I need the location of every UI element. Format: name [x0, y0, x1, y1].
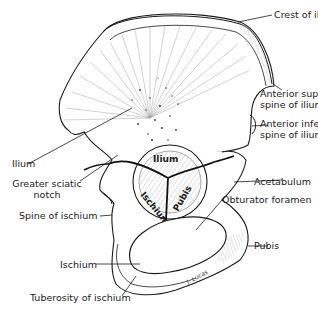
label-anterior-inferior-spine-line1: Anterior inferior	[260, 118, 318, 129]
label-ilium: Ilium	[12, 158, 35, 169]
label-ischium: Ischium	[60, 259, 97, 270]
label-anterior-inferior-spine-line2: spine of ilium	[260, 129, 318, 140]
label-acetabulum: Acetabulum	[254, 176, 311, 187]
label-anterior-superior-spine-line2: spine of ilium	[260, 99, 318, 110]
label-greater-sciatic-notch: Greater sciatic notch	[10, 178, 84, 200]
label-anterior-superior-spine-line1: Anterior superior	[260, 88, 318, 99]
acetabulum-region-ilium: Ilium	[153, 154, 178, 164]
hip-bone-illustration: Ilium Ischium Pubis J. Lucas	[0, 0, 318, 310]
label-greater-sciatic-notch-line2: notch	[10, 189, 84, 200]
label-anterior-superior-spine: Anterior superior spine of ilium	[260, 88, 318, 110]
label-spine-of-ischium: Spine of ischium	[19, 210, 98, 221]
label-anterior-inferior-spine: Anterior inferior spine of ilium	[260, 118, 318, 140]
label-obturator-foramen: Obturator foramen	[222, 194, 311, 205]
label-pubis: Pubis	[254, 240, 279, 251]
label-crest-of-ilium: Crest of ilium	[274, 9, 318, 20]
label-tuberosity-of-ischium: Tuberosity of ischium	[30, 292, 131, 303]
hip-bone-diagram: Ilium Ischium Pubis J. Lucas Crest of i	[0, 0, 318, 310]
label-greater-sciatic-notch-line1: Greater sciatic	[10, 178, 84, 189]
